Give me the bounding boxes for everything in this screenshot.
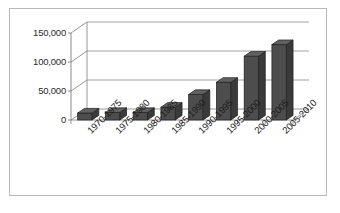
y-axis-tick-label: 150,000 [33,27,66,38]
gridline-riser-150000 [71,22,87,33]
y-axis-tick-label: 50,000 [38,85,66,96]
y-axis-tick-label: 100,000 [33,56,66,67]
gridline-riser-50000 [71,80,87,91]
gridline-riser-100000 [71,51,87,62]
y-axis-tick-label: 0 [61,114,66,125]
